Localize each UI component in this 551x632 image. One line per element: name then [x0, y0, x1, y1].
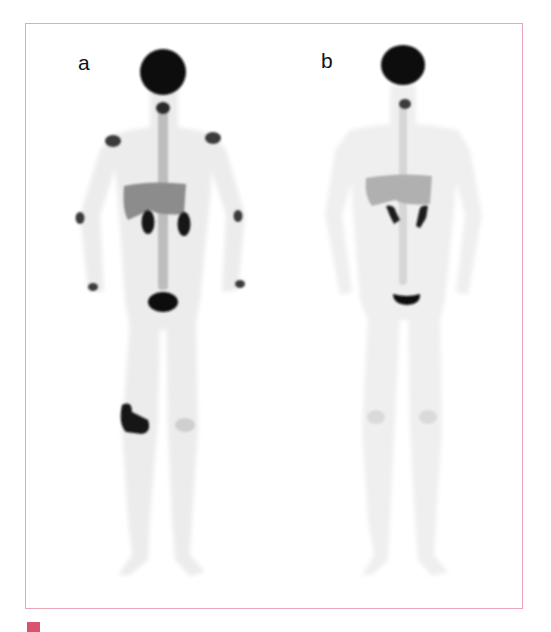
panel-a-label: a [78, 52, 90, 73]
figure-caption [25, 622, 325, 632]
panel-b-label: b [321, 50, 333, 71]
panel-b-scan [325, 45, 482, 576]
panel-a-scan [76, 49, 246, 576]
caption-marker-icon [27, 622, 40, 632]
